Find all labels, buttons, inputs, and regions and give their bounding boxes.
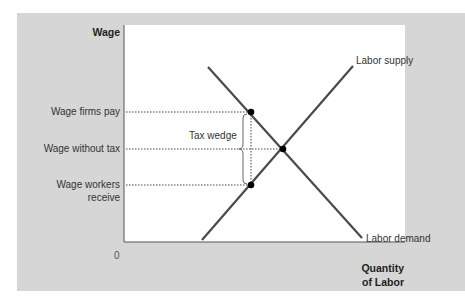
x-axis-label-2: of Labor <box>362 276 404 288</box>
label-wage-workers-receive-2: receive <box>88 192 120 203</box>
y-axis-label: Wage <box>92 26 120 38</box>
origin-label: 0 <box>114 250 120 261</box>
point-equilibrium <box>280 146 287 153</box>
label-wage-workers-receive-1: Wage workers <box>56 179 120 190</box>
tax-wedge-label: Tax wedge <box>189 130 237 141</box>
labor-supply-label: Labor supply <box>356 55 413 66</box>
x-axis-label-1: Quantity <box>361 262 404 274</box>
label-wage-firms-pay: Wage firms pay <box>51 106 120 117</box>
point-wage-workers-receive <box>248 182 255 189</box>
point-wage-firms-pay <box>248 109 255 116</box>
label-wage-without-tax: Wage without tax <box>44 143 120 154</box>
labor-demand-label: Labor demand <box>366 233 431 244</box>
